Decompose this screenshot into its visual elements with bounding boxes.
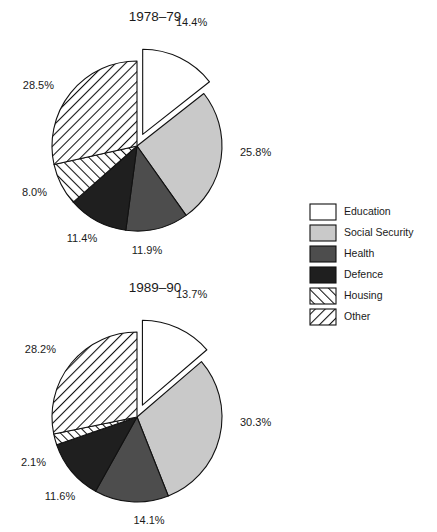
legend-swatch-defence[interactable] — [310, 267, 336, 283]
slice-value-label: 14.4% — [176, 16, 207, 28]
legend-label-other: Other — [344, 310, 371, 322]
slice-value-label: 14.1% — [133, 514, 164, 526]
slice-value-label: 28.5% — [23, 79, 54, 91]
legend-label-housing: Housing — [344, 289, 383, 301]
slice-value-label: 11.9% — [132, 244, 163, 256]
legend-label-education: Education — [344, 205, 391, 217]
chart-title: 1989–90 — [129, 280, 182, 295]
legend-swatch-health[interactable] — [310, 246, 336, 262]
legend-label-defence: Defence — [344, 268, 383, 280]
legend-swatch-housing[interactable] — [310, 288, 336, 304]
slice-value-label: 2.1% — [21, 456, 46, 468]
legend-swatch-other[interactable] — [310, 309, 336, 325]
pie-chart-figure: 1978–7914.4%25.8%11.9%11.4%8.0%28.5%1989… — [0, 0, 437, 532]
legend-swatch-social_security[interactable] — [310, 225, 336, 241]
slice-value-label: 11.6% — [45, 490, 76, 502]
slice-value-label: 8.0% — [22, 186, 47, 198]
chart-title: 1978–79 — [129, 9, 182, 24]
slice-value-label: 28.2% — [25, 343, 56, 355]
slice-value-label: 13.7% — [176, 288, 207, 300]
slice-value-label: 30.3% — [240, 416, 271, 428]
legend-label-social_security: Social Security — [344, 226, 414, 238]
slice-value-label: 11.4% — [67, 232, 98, 244]
slice-value-label: 25.8% — [240, 146, 271, 158]
legend-swatch-education[interactable] — [310, 204, 336, 220]
legend-label-health: Health — [344, 247, 375, 259]
